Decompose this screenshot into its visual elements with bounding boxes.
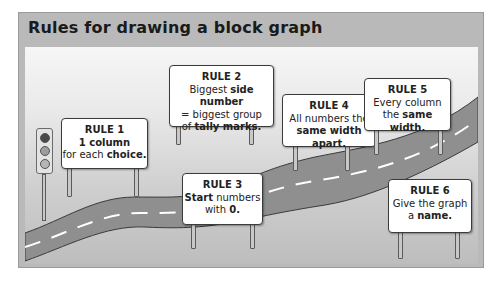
red-lamp-icon — [40, 133, 50, 143]
sign-post — [250, 223, 255, 249]
rule-4-line-2-bold: same width apart. — [296, 125, 361, 149]
green-lamp-icon — [40, 159, 50, 169]
rule-6-sign: RULE 6 Give the graph a name. — [388, 179, 472, 233]
rule-5-line-1: Every column — [373, 97, 441, 108]
rule-2-sign: RULE 2 Biggest side number = biggest gro… — [169, 65, 274, 127]
road-scene: RULE 1 1 column for each choice. RULE 2 … — [25, 47, 478, 264]
rule-6-heading: RULE 6 — [389, 185, 471, 198]
rule-1-line-2-bold: choice. — [107, 149, 147, 160]
rule-3-line-1-bold: Start — [185, 192, 213, 203]
sign-post — [67, 167, 72, 197]
rule-2-line-2: = biggest group — [181, 109, 262, 120]
sign-post — [191, 223, 196, 249]
rule-6-line-2-text: a — [408, 210, 417, 221]
rule-1-line-1: 1 column — [79, 137, 130, 148]
rules-panel: Rules for drawing a block graph RULE 1 1… — [18, 12, 484, 268]
page-title: Rules for drawing a block graph — [28, 18, 323, 37]
rule-4-sign: RULE 4 All numbers the same width apart. — [282, 94, 376, 147]
rule-5-line-2-text: the — [383, 109, 403, 120]
rule-4-heading: RULE 4 — [283, 100, 375, 113]
rule-5-sign: RULE 5 Every column the same width. — [364, 78, 451, 131]
rule-3-line-2-text: with — [205, 204, 229, 215]
traffic-light-icon — [36, 128, 53, 174]
rule-1-heading: RULE 1 — [62, 124, 147, 137]
rule-4-line-1: All numbers the — [289, 113, 368, 124]
rule-2-line-3-text: of — [182, 121, 195, 132]
sign-post — [398, 231, 403, 259]
rule-2-line-3-bold: tally marks. — [194, 121, 261, 132]
rule-3-heading: RULE 3 — [183, 179, 262, 192]
rule-5-heading: RULE 5 — [365, 84, 450, 97]
rule-2-heading: RULE 2 — [170, 71, 273, 84]
rule-6-line-2-bold: name. — [417, 210, 452, 221]
rule-2-line-1-text: Biggest — [189, 84, 230, 95]
rule-3-line-2-bold: 0. — [229, 204, 240, 215]
sign-post — [134, 167, 139, 197]
sign-post — [455, 231, 460, 259]
rule-3-line-1-text: numbers — [213, 192, 260, 203]
rule-3-sign: RULE 3 Start numbers with 0. — [182, 173, 263, 225]
traffic-light-pole — [42, 174, 46, 221]
rule-1-sign: RULE 1 1 column for each choice. — [61, 118, 148, 169]
rule-6-line-1: Give the graph — [393, 198, 468, 209]
rule-1-line-2-text: for each — [62, 149, 106, 160]
amber-lamp-icon — [40, 146, 50, 156]
